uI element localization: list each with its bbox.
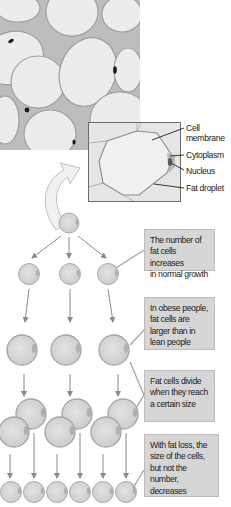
fat-cells-row-normal [19,264,119,285]
fat-cell-initial [59,213,79,233]
fat-cells-row-dividing [0,399,138,447]
note-fat-loss: With fat loss, the size of the cells, bu… [144,434,219,497]
label-nucleus: Nucleus [186,166,215,176]
note-normal-growth: The number of fat cells increases in nor… [144,229,215,271]
fat-cells-row-obese [7,335,129,365]
inset-leader-lines [152,128,184,188]
fat-cells-row-fat-loss [1,482,137,503]
note-pointers [116,250,144,488]
label-fat-droplet: Fat droplet [186,183,224,193]
label-cell-membrane: Cell membrane [186,123,231,143]
label-cytoplasm: Cytoplasm [186,150,224,160]
note-obese: In obese people, fat cells are larger th… [144,297,215,350]
note-divide: Fat cells divide when they reach a certa… [144,370,215,422]
growth-arrows [32,236,106,258]
